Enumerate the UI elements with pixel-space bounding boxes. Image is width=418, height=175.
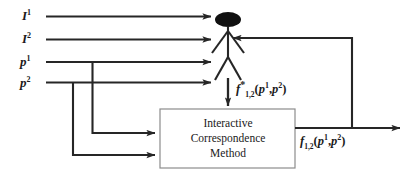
figure-arm-right — [228, 31, 244, 53]
label-input-points-2: p2 — [20, 76, 31, 89]
figure-leg-left — [215, 57, 228, 80]
label-method-output-function: f1,2(p1,p2) — [300, 134, 346, 150]
branch-points-1-to-method — [93, 62, 156, 133]
label-input-points-1: p1 — [20, 55, 31, 68]
human-operator-figure — [212, 12, 244, 80]
figure-leg-right — [228, 57, 241, 80]
figure-arm-left — [212, 31, 228, 53]
method-box-line-2: Correspondence — [191, 131, 266, 146]
label-input-image-2: I2 — [22, 32, 31, 45]
method-box-line-3: Method — [210, 146, 246, 161]
figure-head-icon — [215, 12, 241, 27]
label-human-output-function: f*1,2(p1,p2) — [236, 80, 287, 98]
branch-points-2-to-method — [73, 83, 155, 156]
diagram-canvas: I1 I2 p1 p2 f*1,2(p1,p2) f1,2(p1,p2) Int… — [0, 0, 418, 175]
method-box-line-1: Interactive — [203, 116, 252, 131]
label-input-image-1: I1 — [22, 9, 31, 22]
method-box-label: Interactive Correspondence Method — [161, 110, 295, 167]
